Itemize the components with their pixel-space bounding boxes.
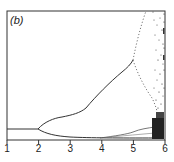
x-tick-label: 3 [67,143,73,154]
x-tick-label: 2 [36,143,42,154]
x-axis-ticks [7,140,165,144]
plot-frame [7,11,165,140]
dotted-branch-up [133,11,146,60]
secondary-branch [100,127,155,138]
upper-branch [38,60,133,129]
bifurcation-chart [0,0,174,162]
x-tick-label: 4 [99,143,105,154]
x-tick-label: 1 [4,143,10,154]
x-tick-label: 5 [131,143,137,154]
secondary-branch-2 [110,133,155,137]
chaotic-region [152,12,165,140]
panel-label: (b) [10,14,23,26]
x-tick-label: 6 [162,143,168,154]
